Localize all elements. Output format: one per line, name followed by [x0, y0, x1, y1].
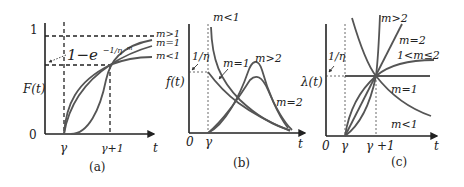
panel-c-origin: 0 [322, 139, 330, 153]
panel-a-label-m-lt-1: m<1 [156, 50, 180, 61]
panel-a-xtick-gamma: γ [60, 141, 68, 155]
panel-a-xtick-gamma1: γ+1 [101, 142, 124, 155]
panel-c-curve-1-lt-m-le-2 [345, 60, 434, 136]
panel-a-caption: (a) [89, 160, 106, 174]
panel-c-xtick-gamma: γ [341, 139, 349, 153]
panel-a-label-m-eq-1: m=1 [156, 37, 180, 48]
panel-b-origin: 0 [186, 135, 194, 149]
panel-c-label-m-lt-1: m<1 [391, 118, 418, 131]
panel-b-x-label: t [298, 137, 303, 151]
panel-b-pdf: m<1 1/η m=1 m>2 m=2 f(t) 0 γ t (b) [165, 11, 305, 170]
panel-c-eta-arrow [329, 66, 334, 72]
panel-c-xtick-gamma1: γ +1 [366, 139, 395, 153]
weibull-figure: 1 0 F(t) t γ γ+1 (a) 1−e −1/η m m>1 m=1 … [0, 0, 464, 187]
panel-c-label-m-gt-2: m>2 [381, 12, 408, 25]
panel-c-label-1-lt-m-le-2: 1<m≤2 [397, 49, 440, 62]
panel-b-label-m-gt-2: m>2 [255, 52, 282, 65]
panel-b-eta-arrow [192, 64, 198, 70]
panel-a-ytick-0: 0 [29, 128, 37, 142]
panel-c-x-label: t [434, 139, 439, 153]
panel-c-caption: (c) [391, 155, 407, 169]
panel-a-ytick-1: 1 [30, 23, 38, 37]
panel-b-label-m-eq-2: m=2 [276, 96, 303, 109]
panel-a-x-label: t [153, 141, 158, 155]
panel-c-label-m-eq-2: m=2 [399, 34, 426, 47]
panel-b-eta-label: 1/η [192, 50, 210, 63]
panel-b-label-m-lt-1: m<1 [213, 11, 240, 24]
panel-b-xtick-gamma: γ [205, 135, 213, 149]
panel-a-curve-m-lt-1 [64, 57, 152, 134]
panel-a-y-label: F(t) [22, 82, 46, 96]
panel-b-label-m-eq-1: m=1 [223, 57, 250, 70]
panel-c-eta-label: 1/η [328, 50, 346, 63]
panel-b-y-label: f(t) [165, 75, 185, 89]
panel-c-label-m-eq-1: m=1 [391, 83, 418, 96]
panel-c-hazard: m>2 m=2 1<m≤2 m=1 m<1 1/η λ(t) 0 γ γ +1 … [300, 12, 440, 169]
panel-b-caption: (b) [233, 156, 250, 170]
panel-a-cdf: 1 0 F(t) t γ γ+1 (a) 1−e −1/η m m>1 m=1 … [22, 22, 180, 174]
panel-c-y-label: λ(t) [300, 75, 323, 89]
